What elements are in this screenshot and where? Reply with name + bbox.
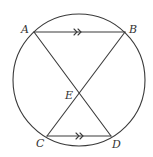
circle-chord-diagram: A B E C D xyxy=(0,0,153,157)
chord-bc xyxy=(47,32,125,136)
chord-ad xyxy=(34,32,111,136)
label-a: A xyxy=(20,23,29,36)
label-e: E xyxy=(64,89,73,102)
label-b: B xyxy=(128,23,137,36)
label-d: D xyxy=(111,138,121,151)
label-c: C xyxy=(36,137,45,150)
